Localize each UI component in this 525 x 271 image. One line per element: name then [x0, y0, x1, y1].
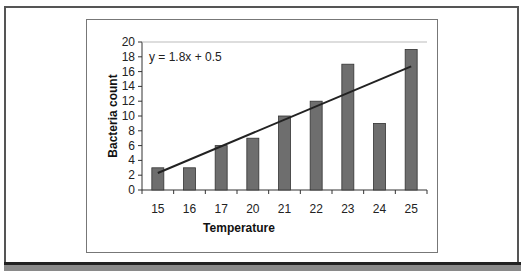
- y-tick-label: 14: [122, 79, 136, 93]
- y-tick-label: 18: [122, 50, 136, 64]
- trendline-equation: y = 1.8x + 0.5: [149, 50, 222, 64]
- y-tick-label: 10: [122, 109, 136, 123]
- y-tick-label: 20: [122, 35, 136, 49]
- y-tick-label: 2: [128, 168, 135, 182]
- bar: [310, 101, 322, 190]
- bar: [405, 49, 417, 190]
- bar: [374, 123, 386, 190]
- x-tick-label: 24: [373, 202, 387, 216]
- x-tick-label: 17: [214, 202, 228, 216]
- y-tick-label: 6: [128, 139, 135, 153]
- bar: [342, 64, 354, 190]
- y-axis-title: Bacteria count: [106, 74, 120, 157]
- bar-chart: 02468101214161820 151617202122232425 y =…: [0, 0, 525, 271]
- bar: [184, 168, 196, 190]
- x-tick-label: 23: [341, 202, 355, 216]
- x-tick-label: 16: [183, 202, 197, 216]
- x-axis: 151617202122232425: [142, 190, 427, 216]
- x-axis-title: Temperature: [203, 221, 275, 235]
- x-tick-label: 21: [278, 202, 292, 216]
- x-tick-label: 25: [404, 202, 418, 216]
- y-tick-label: 16: [122, 65, 136, 79]
- x-tick-label: 22: [309, 202, 323, 216]
- y-tick-label: 4: [128, 153, 135, 167]
- bar: [215, 146, 227, 190]
- bar: [247, 138, 259, 190]
- x-tick-label: 20: [246, 202, 260, 216]
- bar: [279, 116, 291, 190]
- y-tick-label: 8: [128, 124, 135, 138]
- y-tick-label: 0: [128, 183, 135, 197]
- y-tick-label: 12: [122, 94, 136, 108]
- x-tick-label: 15: [151, 202, 165, 216]
